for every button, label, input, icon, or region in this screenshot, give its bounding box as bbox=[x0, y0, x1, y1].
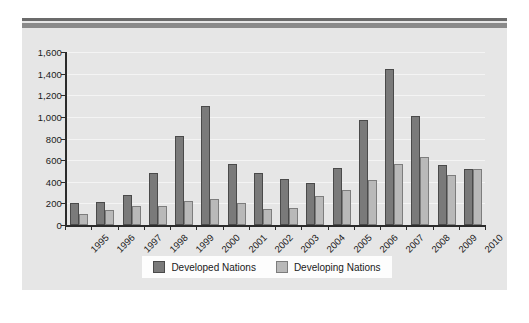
bar-developed-2002[interactable] bbox=[254, 173, 263, 225]
bar-group bbox=[223, 52, 249, 225]
x-axis-tick-label: 2001 bbox=[246, 232, 269, 255]
y-axis-tick-label: 1,000 bbox=[38, 111, 62, 122]
bar-developing-2010[interactable] bbox=[473, 169, 482, 225]
x-axis-tick-label: 1995 bbox=[88, 232, 111, 255]
bar-group bbox=[433, 52, 459, 225]
bar-group bbox=[65, 52, 91, 225]
y-axis-tick-label: 200 bbox=[46, 198, 62, 209]
x-axis-tick-label: 2009 bbox=[456, 232, 479, 255]
y-axis-tick-label: 1,400 bbox=[38, 68, 62, 79]
legend-label: Developing Nations bbox=[294, 262, 381, 273]
bar-group bbox=[170, 52, 196, 225]
bar-developing-1998[interactable] bbox=[158, 206, 167, 225]
bar-developed-1995[interactable] bbox=[70, 203, 79, 225]
decorative-rule-lower bbox=[22, 23, 507, 28]
bar-developing-1995[interactable] bbox=[79, 214, 88, 225]
bar-developed-2007[interactable] bbox=[385, 69, 394, 225]
bar-developing-1996[interactable] bbox=[105, 210, 114, 225]
bar-developed-2005[interactable] bbox=[333, 168, 342, 225]
x-axis-tick-label: 2006 bbox=[377, 232, 400, 255]
bar-developing-2005[interactable] bbox=[342, 190, 351, 225]
bar-developed-2008[interactable] bbox=[411, 116, 420, 225]
bar-group bbox=[91, 52, 117, 225]
bar-developed-2004[interactable] bbox=[306, 183, 315, 225]
y-axis-tick-label: 1,200 bbox=[38, 90, 62, 101]
x-axis-tick-label: 1996 bbox=[115, 232, 138, 255]
bar-group bbox=[380, 52, 406, 225]
x-axis-tick-label: 2000 bbox=[220, 232, 243, 255]
x-axis-tick-label: 2004 bbox=[325, 232, 348, 255]
x-axis-tick-label: 2008 bbox=[430, 232, 453, 255]
legend-item-developed[interactable]: Developed Nations bbox=[153, 261, 256, 273]
bar-developed-2009[interactable] bbox=[438, 165, 447, 225]
x-axis-tick-label: 1997 bbox=[141, 232, 164, 255]
bar-developed-1997[interactable] bbox=[123, 195, 132, 225]
bar-developing-2000[interactable] bbox=[210, 199, 219, 225]
bar-developed-1996[interactable] bbox=[96, 202, 105, 225]
bar-developing-1999[interactable] bbox=[184, 201, 193, 225]
x-axis-tick-label: 1999 bbox=[193, 232, 216, 255]
bar-developed-2010[interactable] bbox=[464, 169, 473, 225]
chart-figure: 1,6001,4001,2001,0008006004002000 199519… bbox=[22, 18, 507, 290]
bar-group bbox=[328, 52, 354, 225]
x-axis-tick-label: 2010 bbox=[482, 232, 505, 255]
legend-label: Developed Nations bbox=[171, 262, 256, 273]
bar-group bbox=[406, 52, 432, 225]
x-axis-tick-mark bbox=[485, 225, 486, 230]
bar-group bbox=[301, 52, 327, 225]
bar-developing-2007[interactable] bbox=[394, 164, 403, 225]
bar-developing-2001[interactable] bbox=[237, 203, 246, 225]
x-axis-tick-label: 1998 bbox=[167, 232, 190, 255]
legend-swatch-icon bbox=[276, 261, 288, 273]
x-axis-tick-label: 2005 bbox=[351, 232, 374, 255]
bar-developing-1997[interactable] bbox=[132, 206, 141, 225]
x-axis-tick-label: 2003 bbox=[298, 232, 321, 255]
chart-legend: Developed NationsDeveloping Nations bbox=[142, 256, 392, 278]
x-axis-tick-label: 2007 bbox=[403, 232, 426, 255]
y-axis-labels: 1,6001,4001,2001,0008006004002000 bbox=[22, 52, 62, 226]
legend-item-developing[interactable]: Developing Nations bbox=[276, 261, 381, 273]
y-axis-tick-label: 400 bbox=[46, 176, 62, 187]
x-axis-tick-label: 2002 bbox=[272, 232, 295, 255]
bar-developing-2003[interactable] bbox=[289, 208, 298, 225]
bar-group bbox=[354, 52, 380, 225]
y-axis-tick-label: 1,600 bbox=[38, 47, 62, 58]
bar-developing-2008[interactable] bbox=[420, 157, 429, 225]
bar-developed-2000[interactable] bbox=[201, 106, 210, 225]
plot-area bbox=[65, 52, 485, 225]
bar-developed-2001[interactable] bbox=[228, 164, 237, 225]
bar-group bbox=[275, 52, 301, 225]
y-axis-tick-label: 800 bbox=[46, 133, 62, 144]
bar-group bbox=[249, 52, 275, 225]
bar-group bbox=[144, 52, 170, 225]
bar-developed-1998[interactable] bbox=[149, 173, 158, 225]
bar-group bbox=[118, 52, 144, 225]
bar-developed-2006[interactable] bbox=[359, 120, 368, 225]
bar-group bbox=[196, 52, 222, 225]
bar-group bbox=[459, 52, 485, 225]
bar-developing-2002[interactable] bbox=[263, 209, 272, 225]
bar-developing-2004[interactable] bbox=[315, 196, 324, 225]
bar-developing-2006[interactable] bbox=[368, 180, 377, 225]
legend-swatch-icon bbox=[153, 261, 165, 273]
bar-developing-2009[interactable] bbox=[447, 175, 456, 225]
y-axis-line bbox=[65, 52, 67, 226]
y-axis-tick-label: 600 bbox=[46, 155, 62, 166]
bar-developed-2003[interactable] bbox=[280, 179, 289, 225]
bar-developed-1999[interactable] bbox=[175, 136, 184, 225]
decorative-rule-upper bbox=[22, 18, 507, 21]
